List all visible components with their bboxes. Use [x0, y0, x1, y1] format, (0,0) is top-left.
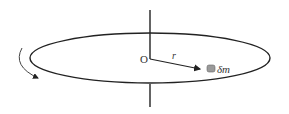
- mass-label: δm: [217, 63, 230, 75]
- origin-label: O: [140, 53, 148, 65]
- mass-element-icon: [207, 65, 215, 72]
- rotation-direction-arrow-icon: [19, 48, 38, 78]
- rotating-disk-diagram: O r δm: [0, 0, 289, 114]
- radius-label: r: [172, 50, 176, 61]
